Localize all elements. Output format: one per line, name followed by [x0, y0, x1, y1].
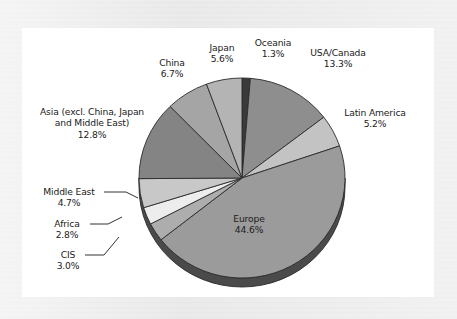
slice-label-europe-name: Europe [221, 213, 277, 224]
slice-label-japan-name: Japan [197, 42, 247, 53]
slice-label-middle-east-value: 4.7% [36, 197, 102, 208]
slice-label-latin-america-name: Latin America [328, 107, 422, 118]
screenshot-page: Japan 5.6% Oceania 1.3% China 6.7% USA/C… [0, 0, 457, 319]
slice-label-cis: CIS 3.0% [52, 249, 84, 272]
slice-label-oceania-name: Oceania [244, 37, 302, 48]
slice-label-japan: Japan 5.6% [197, 42, 247, 65]
slice-label-asia-name-line2: and Middle East) [28, 117, 156, 128]
slice-label-africa: Africa 2.8% [45, 218, 89, 241]
leader-line-cis [85, 237, 119, 255]
slice-label-cis-name: CIS [52, 249, 84, 260]
slice-label-oceania-value: 1.3% [244, 48, 302, 59]
slice-label-asia-value: 12.8% [28, 129, 156, 140]
slice-label-japan-value: 5.6% [197, 53, 247, 64]
slice-label-china-name: China [148, 57, 196, 68]
slice-label-oceania: Oceania 1.3% [244, 37, 302, 60]
slice-label-usa-canada-name: USA/Canada [295, 47, 381, 58]
slice-label-africa-value: 2.8% [45, 229, 89, 240]
slice-label-asia-name-line1: Asia (excl. China, Japan [28, 106, 156, 117]
slice-label-middle-east-name: Middle East [36, 186, 102, 197]
slice-label-china: China 6.7% [148, 57, 196, 80]
slice-label-usa-canada-value: 13.3% [295, 58, 381, 69]
slice-label-usa-canada: USA/Canada 13.3% [295, 47, 381, 70]
pie-slices-layer [139, 78, 345, 278]
leader-line-middle-east [104, 192, 138, 198]
chart-plot-area: Japan 5.6% Oceania 1.3% China 6.7% USA/C… [22, 28, 434, 297]
slice-label-cis-value: 3.0% [52, 260, 84, 271]
slice-label-africa-name: Africa [45, 218, 89, 229]
slice-label-latin-america-value: 5.2% [328, 118, 422, 129]
slice-label-europe-value: 44.6% [221, 224, 277, 235]
leader-line-africa [90, 217, 122, 224]
slice-label-china-value: 6.7% [148, 68, 196, 79]
slice-label-middle-east: Middle East 4.7% [36, 186, 102, 209]
slice-label-latin-america: Latin America 5.2% [328, 107, 422, 130]
slice-label-asia: Asia (excl. China, Japan and Middle East… [28, 106, 156, 140]
slice-label-europe: Europe 44.6% [221, 213, 277, 236]
